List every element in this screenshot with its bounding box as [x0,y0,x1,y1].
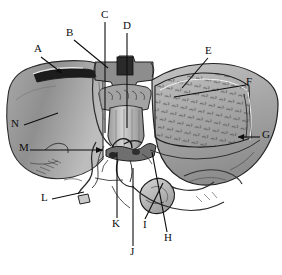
label-C: C [101,9,108,20]
label-I: I [143,219,147,230]
anatomy-figure: A B C D E F G H I J K L M N [0,0,282,275]
label-D: D [123,20,131,31]
label-L: L [41,192,48,203]
label-N: N [11,118,19,129]
label-H: H [164,232,172,243]
label-F: F [246,76,252,87]
label-M: M [19,142,29,153]
label-J: J [130,246,134,257]
label-K: K [112,218,120,229]
label-B: B [66,27,73,38]
right-lobe-group [150,64,278,203]
label-G: G [262,129,270,140]
label-E: E [205,45,212,56]
label-A: A [34,43,42,54]
left-lobe-group [7,61,103,181]
liver-illustration [0,0,282,275]
